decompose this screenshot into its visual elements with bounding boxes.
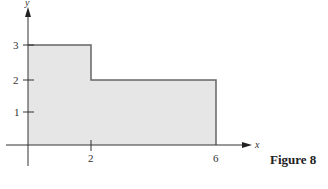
y-tick-label-1: 1 — [14, 106, 20, 118]
y-axis-arrow-icon — [25, 7, 31, 17]
y-tick-label-3: 3 — [13, 39, 19, 51]
shaded-region — [28, 45, 216, 145]
x-tick-label-6: 6 — [213, 152, 219, 164]
y-axis-label: y — [24, 0, 30, 8]
x-axis-arrow-icon — [242, 142, 252, 148]
x-axis-label: x — [254, 139, 260, 150]
figure-caption: Figure 8 — [270, 152, 316, 168]
x-tick-label-2: 2 — [88, 152, 94, 164]
y-tick-label-2: 2 — [13, 74, 19, 86]
